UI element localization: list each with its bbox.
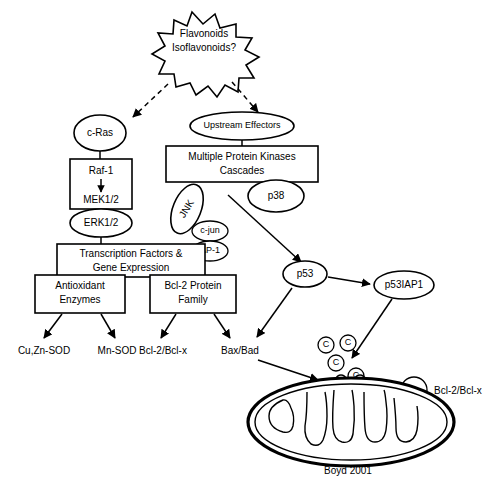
cytochrome-c-label: C bbox=[323, 339, 330, 349]
node-transcription-box: Transcription Factors & Gene Expression bbox=[57, 244, 205, 277]
bcl2-family-line2: Family bbox=[178, 294, 207, 305]
p53-label: p53 bbox=[297, 268, 314, 279]
c-ras-label: c-Ras bbox=[87, 127, 113, 138]
arrow-p53iap1-to-pore bbox=[352, 299, 392, 358]
arrow-p53-to-baxbad bbox=[257, 288, 292, 337]
terminal-bax-bad: Bax/Bad bbox=[221, 345, 259, 356]
arrow-p53-to-p53iap1 bbox=[328, 277, 370, 284]
node-c-ras: c-Ras bbox=[74, 115, 126, 151]
node-erk: ERK1/2 bbox=[70, 209, 132, 237]
transcription-line1: Transcription Factors & bbox=[80, 248, 183, 259]
node-bcl2-family-box: Bcl-2 Protein Family bbox=[150, 275, 236, 313]
pathway-diagram-svg: Flavonoids Isoflavonoids? c-Ras Raf-1 ME… bbox=[0, 0, 484, 494]
terminal-cuznsod: Cu,Zn-SOD bbox=[18, 345, 70, 356]
mitochondrion bbox=[248, 378, 454, 466]
cytochrome-c-label: C bbox=[345, 337, 352, 347]
antioxidant-line1: Antioxidant bbox=[55, 280, 105, 291]
node-c-jun: c-jun bbox=[192, 221, 228, 241]
c-jun-label: c-jun bbox=[200, 225, 220, 235]
stimulus-line2: Isoflavonoids? bbox=[172, 42, 236, 53]
mek-label: MEK1/2 bbox=[83, 194, 119, 205]
diagram-caption: Boyd 2001 bbox=[324, 465, 372, 476]
antioxidant-line2: Enzymes bbox=[59, 294, 100, 305]
transcription-line2: Gene Expression bbox=[93, 262, 170, 273]
raf1-label: Raf-1 bbox=[89, 165, 114, 176]
arrow-to-cuznsod bbox=[44, 314, 62, 338]
dashed-arrow-to-cras bbox=[133, 84, 168, 117]
cytochrome-c-circle: C bbox=[318, 337, 334, 353]
bcl2-family-line1: Bcl-2 Protein bbox=[164, 280, 221, 291]
node-p53iap1: p53IAP1 bbox=[374, 271, 434, 299]
node-p38: p38 bbox=[248, 180, 304, 212]
p53iap1-label: p53IAP1 bbox=[385, 279, 424, 290]
pathway-diagram-canvas: Flavonoids Isoflavonoids? c-Ras Raf-1 ME… bbox=[0, 0, 484, 494]
arrow-to-mnsod bbox=[101, 314, 115, 338]
node-upstream-effectors: Upstream Effectors bbox=[190, 112, 294, 140]
p38-label: p38 bbox=[268, 190, 285, 201]
node-kinases-box: Multiple Protein Kinases Cascades bbox=[166, 146, 318, 182]
arrow-to-baxbad bbox=[214, 314, 230, 338]
terminal-mnsod: Mn-SOD bbox=[98, 345, 137, 356]
arrow-to-bcl2bclx bbox=[161, 314, 176, 338]
upstream-effectors-label: Upstream Effectors bbox=[204, 120, 281, 130]
cytochrome-c-circle: C bbox=[340, 335, 356, 351]
terminal-bcl2-bclx: Bcl-2/Bcl-x bbox=[139, 345, 187, 356]
kinases-line1: Multiple Protein Kinases bbox=[188, 151, 295, 162]
node-antioxidant-box: Antioxidant Enzymes bbox=[35, 275, 125, 313]
cytochrome-c-circle: C bbox=[328, 355, 344, 371]
node-raf-mek-box: Raf-1 MEK1/2 bbox=[70, 159, 132, 209]
kinases-line2: Cascades bbox=[220, 165, 264, 176]
arrow-baxbad-to-pore bbox=[258, 360, 318, 380]
erk-label: ERK1/2 bbox=[84, 217, 119, 228]
bcl2-membrane-label: Bcl-2/Bcl-x bbox=[434, 385, 482, 396]
stimulus-line1: Flavonoids bbox=[180, 28, 228, 39]
node-p53: p53 bbox=[283, 261, 327, 287]
cytochrome-c-label: C bbox=[333, 357, 340, 367]
